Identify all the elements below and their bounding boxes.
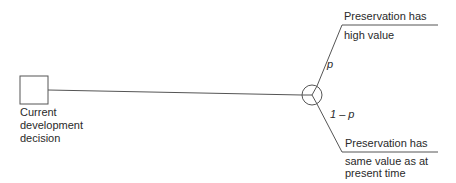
lower-outcome-line-1: Preservation has [345, 137, 428, 150]
decision-node-label: Current development decision [20, 106, 83, 145]
decision-node-square [20, 76, 48, 104]
chance-node-inner-up [312, 86, 317, 95]
decision-label-line-2: development [20, 119, 83, 132]
connector-line [48, 90, 302, 95]
chance-node-inner-down [312, 95, 317, 104]
upper-branch-diagonal [317, 25, 342, 86]
upper-branch-probability: p [327, 58, 333, 71]
lower-branch-probability: 1 – p [330, 108, 354, 121]
decision-label-line-3: decision [20, 132, 83, 145]
upper-outcome-line-1: Preservation has [344, 10, 427, 23]
upper-outcome-line-2: high value [344, 29, 394, 42]
decision-label-line-1: Current [20, 106, 83, 119]
lower-outcome-line-3: present time [345, 167, 406, 180]
